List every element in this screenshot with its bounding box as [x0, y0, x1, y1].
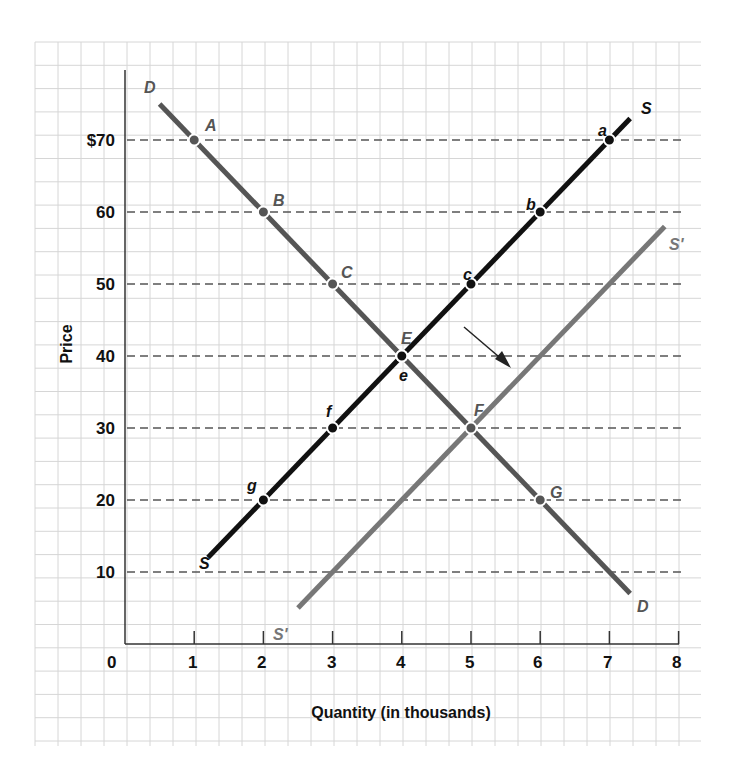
point-label-g: g	[246, 477, 257, 494]
shifted-supply-label-top: S'	[669, 236, 685, 253]
x-axis-title: Quantity (in thousands)	[311, 704, 491, 721]
demand-curve	[160, 104, 631, 594]
point-label-E: E	[401, 330, 413, 347]
point-label-A: A	[204, 117, 217, 134]
x-tick-5: 5	[465, 653, 474, 672]
x-tick-2: 2	[257, 653, 266, 672]
point-label-c: c	[463, 266, 472, 283]
supply-demand-chart: 0 1 2 3 4 5 6 7 8 $70 60 50 40 30 20 10 …	[0, 0, 737, 779]
x-tick-6: 6	[533, 653, 542, 672]
x-tick-7: 7	[603, 653, 612, 672]
point-label-f: f	[326, 403, 333, 420]
point-e	[396, 351, 407, 362]
demand-label-top: D	[144, 79, 156, 96]
x-tick-1: 1	[188, 653, 197, 672]
point-f	[327, 423, 338, 434]
curve-points	[189, 135, 615, 506]
y-tick-40: 40	[96, 347, 115, 366]
point-label-e: e	[399, 367, 408, 384]
x-tick-8: 8	[672, 653, 681, 672]
point-F	[466, 423, 477, 434]
point-label-b: b	[526, 196, 536, 213]
demand-label-bottom: D	[637, 598, 649, 615]
point-label-G: G	[550, 484, 562, 501]
point-b	[535, 207, 546, 218]
point-A	[189, 135, 200, 146]
x-tick-4: 4	[396, 653, 406, 672]
supply-curve	[208, 118, 630, 557]
shifted-supply-label-bottom: S'	[273, 626, 289, 643]
y-tick-60: 60	[96, 203, 115, 222]
point-label-F: F	[474, 402, 485, 419]
point-C	[327, 279, 338, 290]
point-B	[258, 207, 269, 218]
y-tick-70: $70	[87, 131, 115, 150]
origin-label: 0	[107, 653, 116, 672]
y-tick-20: 20	[96, 491, 115, 510]
y-tick-10: 10	[96, 563, 115, 582]
point-label-C: C	[341, 264, 353, 281]
y-tick-50: 50	[96, 275, 115, 294]
point-label-B: B	[273, 192, 285, 209]
supply-label-bottom: S	[199, 555, 210, 572]
y-axis-title: Price	[58, 324, 75, 363]
point-label-a: a	[598, 122, 607, 139]
point-G	[535, 495, 546, 506]
point-g	[258, 495, 269, 506]
shift-arrow-icon	[464, 327, 511, 368]
y-tick-30: 30	[96, 419, 115, 438]
x-tick-3: 3	[327, 653, 336, 672]
supply-label-top: S	[641, 100, 652, 117]
x-axis-ticks	[194, 631, 678, 644]
